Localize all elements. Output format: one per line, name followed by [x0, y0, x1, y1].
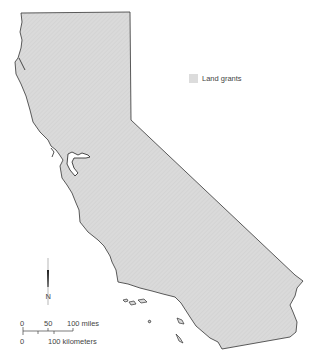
north-arrow: N: [46, 258, 51, 305]
north-label: N: [46, 292, 51, 301]
scale-miles-100: 100 miles: [67, 319, 99, 328]
tomales-bay: [51, 148, 54, 157]
channel-islands: [123, 299, 184, 343]
legend: Land grants: [189, 74, 242, 83]
scale-bar: 0 50 100 miles 0 100 kilometers: [20, 319, 99, 346]
california-outline: [15, 12, 303, 349]
scale-miles-50: 50: [44, 319, 52, 328]
scale-km-100: 100 kilometers: [48, 337, 97, 346]
legend-swatch-land-grants: [189, 74, 198, 83]
scale-km-0: 0: [20, 337, 24, 346]
scale-miles-0: 0: [20, 319, 24, 328]
north-arrow-icon: [47, 270, 49, 287]
legend-label-land-grants: Land grants: [202, 74, 242, 83]
map-canvas: N 0 50 100 miles 0 100 kilometers: [0, 0, 319, 360]
